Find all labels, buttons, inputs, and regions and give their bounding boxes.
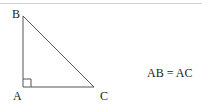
vertex-label-b: B — [12, 8, 20, 20]
triangle-abc — [23, 16, 94, 87]
equation-label: AB = AC — [147, 66, 192, 81]
vertex-label-c: C — [100, 90, 108, 102]
right-angle-marker — [23, 79, 31, 87]
vertex-label-a: A — [13, 90, 22, 102]
